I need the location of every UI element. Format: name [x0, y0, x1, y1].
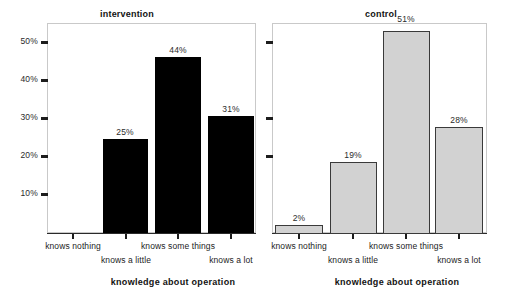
ytick-label-20: 20% — [6, 150, 38, 160]
xtick-label-knows-a-little-control: knows a little — [328, 255, 378, 265]
xtick-label-knows-nothing: knows nothing — [45, 241, 101, 251]
ytick-label-30: 30% — [6, 112, 38, 122]
bar-value-knows-a-little-control: 19% — [344, 150, 361, 160]
bar-knows-a-lot-control — [435, 127, 483, 234]
xtick-label-knows-some-things-control: knows some things — [369, 241, 443, 251]
xtick-mark-knows-a-little — [125, 234, 127, 239]
xtick-label-knows-a-little: knows a little — [101, 255, 151, 265]
xtick-mark-knows-a-lot — [230, 234, 232, 239]
xtick-mark-knows-a-little-control — [352, 234, 354, 239]
bar-value-knows-a-lot: 31% — [222, 104, 239, 114]
xtick-label-knows-some-things: knows some things — [141, 241, 215, 251]
bar-knows-nothing-control — [275, 225, 323, 234]
panel-control: control 2% 19% 51% 28% knows nothing kno… — [254, 0, 508, 301]
xtick-mark-knows-nothing-control — [298, 234, 300, 239]
ytick-mark-20-control — [266, 155, 273, 158]
bar-knows-a-little — [103, 139, 148, 233]
xtick-label-knows-nothing-control: knows nothing — [271, 241, 327, 251]
bar-knows-a-little-control — [330, 162, 377, 234]
ytick-mark-50-control — [266, 41, 273, 44]
chart-figure: intervention 50% 40% 30% 20% 10% 25% 44%… — [0, 0, 508, 301]
bar-value-knows-a-lot-control: 28% — [450, 115, 467, 125]
xtick-mark-knows-nothing — [72, 234, 74, 239]
xtick-mark-knows-a-lot-control — [458, 234, 460, 239]
ytick-mark-10 — [41, 193, 48, 196]
x-axis-title-control: knowledge about operation — [254, 277, 508, 287]
ytick-mark-30-control — [266, 117, 273, 120]
bar-knows-a-lot — [208, 116, 254, 233]
xtick-label-knows-a-lot: knows a lot — [209, 255, 253, 265]
bar-value-knows-nothing-control: 2% — [293, 213, 306, 223]
bar-knows-some-things-control — [383, 31, 430, 234]
ytick-label-10: 10% — [6, 188, 38, 198]
panel-title-intervention: intervention — [0, 9, 254, 19]
bar-value-knows-a-little: 25% — [116, 127, 133, 137]
ytick-mark-20 — [41, 155, 48, 158]
ytick-label-50: 50% — [6, 36, 38, 46]
ytick-mark-40 — [41, 79, 48, 82]
xtick-mark-knows-some-things-control — [405, 234, 407, 239]
bar-value-knows-some-things: 44% — [169, 45, 186, 55]
panel-intervention: intervention 50% 40% 30% 20% 10% 25% 44%… — [0, 0, 254, 301]
x-axis-line — [47, 233, 256, 234]
ytick-mark-30 — [41, 117, 48, 120]
xtick-label-knows-a-lot-control: knows a lot — [437, 255, 481, 265]
ytick-label-40: 40% — [6, 74, 38, 84]
bar-knows-some-things — [155, 57, 201, 233]
ytick-mark-50 — [41, 41, 48, 44]
xtick-mark-knows-some-things — [177, 234, 179, 239]
panel-title-control: control — [254, 9, 508, 19]
bar-value-knows-some-things-control: 51% — [397, 14, 414, 24]
